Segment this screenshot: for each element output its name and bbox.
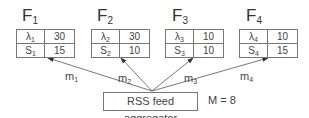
capacity-constraint-label: M = 8 <box>208 94 236 106</box>
edge-label-m4: m4 <box>240 70 253 83</box>
edge-label-m2: m2 <box>118 72 131 85</box>
feed-label-2: F2 <box>97 6 113 26</box>
edge-label-m1: m1 <box>65 70 78 83</box>
feed-table-4: λ410 S415 <box>239 29 298 58</box>
edge-label-m3: m3 <box>184 72 197 85</box>
feed-label-4: F4 <box>246 6 262 26</box>
feed-label-1: F1 <box>22 6 38 26</box>
rss-feed-aggregator-box: RSS feed aggregator <box>103 92 198 111</box>
feed-table-2: λ230 S210 <box>91 29 150 58</box>
feed-table-3: λ310 S310 <box>165 29 224 58</box>
feed-label-3: F3 <box>172 6 188 26</box>
feed-table-1: λ130 S115 <box>16 29 75 58</box>
